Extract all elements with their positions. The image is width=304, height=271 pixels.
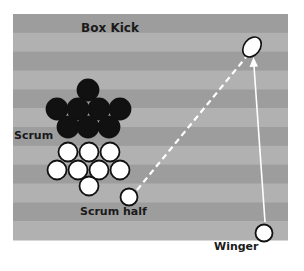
winger-label: Winger bbox=[214, 240, 259, 253]
winger-player bbox=[256, 225, 273, 242]
team-player bbox=[80, 143, 99, 162]
team-player bbox=[80, 177, 99, 196]
pitch-stripe bbox=[13, 184, 288, 203]
pitch-stripe bbox=[13, 14, 288, 33]
team-player bbox=[111, 161, 130, 180]
opposition-player bbox=[78, 117, 99, 138]
team-player bbox=[101, 143, 120, 162]
team-player bbox=[59, 143, 78, 162]
diagram-title: Box Kick bbox=[81, 21, 140, 35]
pitch-stripe bbox=[13, 71, 288, 90]
pitch-stripe bbox=[13, 127, 288, 146]
pitch-stripe bbox=[13, 221, 288, 240]
box-kick-diagram: Box Kick Scrum Scrum half Winger bbox=[0, 0, 304, 271]
pitch-stripe bbox=[13, 202, 288, 221]
opposition-player bbox=[78, 80, 99, 101]
scrum-label: Scrum bbox=[14, 129, 53, 142]
scrum-half-player bbox=[121, 189, 138, 206]
scrum-half-label: Scrum half bbox=[80, 205, 147, 218]
opposition-player bbox=[58, 117, 79, 138]
opposition-player bbox=[99, 117, 120, 138]
team-player bbox=[48, 161, 67, 180]
